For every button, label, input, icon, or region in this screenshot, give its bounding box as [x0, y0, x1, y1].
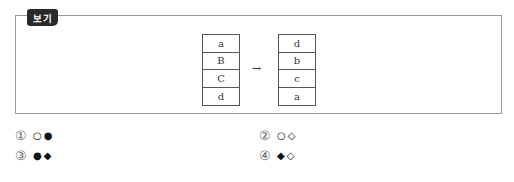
option-number: ④ — [259, 148, 271, 163]
stack-cell: C — [203, 70, 239, 88]
option-symbols: ○◇ — [277, 130, 297, 141]
stack-cell: d — [203, 88, 239, 106]
arrow-icon: → — [252, 62, 261, 75]
option-4[interactable]: ④ ◆◇ — [259, 148, 296, 163]
stack-cell: a — [203, 35, 239, 53]
left-stack: a B C d — [202, 34, 240, 106]
option-symbols: ○● — [33, 130, 54, 141]
stack-cell: d — [279, 35, 315, 53]
stack-cell: b — [279, 53, 315, 71]
stack-cell: a — [279, 88, 315, 106]
option-2[interactable]: ② ○◇ — [259, 128, 297, 143]
stack-cell: B — [203, 53, 239, 71]
option-3[interactable]: ③ ●◆ — [15, 148, 53, 163]
option-symbols: ◆◇ — [277, 150, 296, 161]
option-symbols: ●◆ — [33, 150, 53, 161]
option-number: ③ — [15, 148, 27, 163]
option-number: ① — [15, 128, 27, 143]
right-stack: d b c a — [278, 34, 316, 106]
option-1[interactable]: ① ○● — [15, 128, 54, 143]
example-label: 보기 — [27, 9, 58, 26]
stack-cell: c — [279, 70, 315, 88]
option-number: ② — [259, 128, 271, 143]
